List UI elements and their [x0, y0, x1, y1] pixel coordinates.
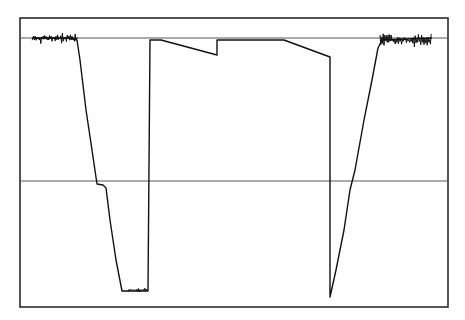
noise-overlays: [32, 33, 431, 292]
right-baseline-noise: [380, 34, 431, 47]
left-baseline-noise: [32, 33, 78, 44]
waveform-chart: [0, 0, 465, 320]
signal-trace: [32, 38, 432, 297]
chart-frame: [20, 18, 448, 307]
